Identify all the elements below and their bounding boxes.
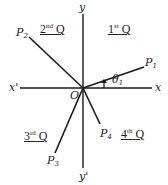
quadrant-2-label: 2nd Q [40,23,65,35]
point-p4-label: P4 [100,128,112,141]
quadrant-diagram: y y' x' x O 1st Q 2nd Q 3rd Q 4th Q P1 P… [0,0,168,185]
y-neg-axis-label: y' [79,171,88,182]
quadrant-3-label: 3rd Q [24,130,48,142]
quadrant-1-label: 1st Q [108,23,130,35]
x-neg-axis-label: x' [9,82,18,93]
y-axis-label: y [79,2,85,13]
ray-op2 [29,37,83,88]
point-p3-label: P3 [47,155,59,168]
origin-label: O [70,90,79,101]
angle-theta1-label: θ1 [112,74,123,87]
x-axis-label: x [155,82,161,93]
point-p1-label: P1 [145,57,157,70]
quadrant-4-label: 4th Q [121,128,144,140]
ray-op4 [83,88,100,124]
point-p2-label: P2 [16,27,28,40]
